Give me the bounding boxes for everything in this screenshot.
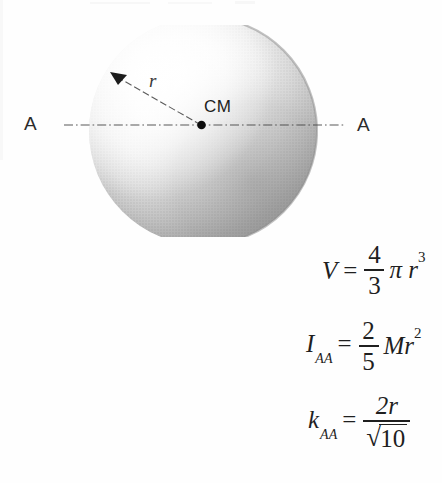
formula-inertia-denominator: 5 xyxy=(359,349,378,375)
formula-volume-fraction: 4 3 xyxy=(364,242,384,299)
formula-inertia-subscript: AA xyxy=(315,351,332,366)
formula-inertia-rhs: Mr2 xyxy=(384,332,422,360)
formula-radgyr-lhs: kAA= xyxy=(308,407,363,437)
radius-arrowhead xyxy=(110,72,127,85)
formula-inertia-numerator: 2 xyxy=(359,318,378,344)
formula-volume-numerator: 4 xyxy=(365,242,384,268)
formula-volume-rhs-body: π r xyxy=(389,256,418,283)
formula-inertia-symbol: I xyxy=(306,330,314,357)
formula-radgyr-denominator: √10 xyxy=(363,424,410,452)
center-of-mass-dot xyxy=(197,121,206,130)
formula-volume-exponent: 3 xyxy=(418,249,426,265)
formula-radgyr-fraction: 2r √10 xyxy=(363,393,410,452)
formula-volume-lhs: V= xyxy=(322,258,364,283)
axis-label-right: A xyxy=(357,114,370,136)
formula-inertia-lhs: IAA= xyxy=(306,331,359,361)
formula-volume-symbol: V xyxy=(322,257,337,284)
square-root-icon: √10 xyxy=(366,424,407,452)
formula-volume-denominator: 3 xyxy=(365,273,384,299)
formula-radius-of-gyration: kAA= 2r √10 xyxy=(300,384,442,460)
formula-radgyr-equals: = xyxy=(342,406,356,433)
formula-moment-of-inertia: IAA= 2 5 Mr2 xyxy=(300,308,442,384)
formula-radgyr-symbol: k xyxy=(308,406,319,433)
radius-line xyxy=(117,77,201,125)
formula-radgyr-subscript: AA xyxy=(320,427,337,442)
formula-inertia-fraction-bar xyxy=(359,345,379,347)
formula-list: V= 4 3 π r3 IAA= 2 5 Mr2 kAA= xyxy=(300,232,442,460)
formula-inertia-equals: = xyxy=(337,330,351,357)
formula-radgyr-radicand: 10 xyxy=(379,424,407,452)
formula-volume-equals: = xyxy=(343,257,357,284)
formula-radgyr-numerator: 2r xyxy=(373,393,401,419)
formula-inertia-exponent: 2 xyxy=(414,325,422,341)
formula-volume-rhs: π r3 xyxy=(389,256,425,284)
axis-label-left: A xyxy=(24,113,37,135)
formula-inertia-rhs-body: Mr xyxy=(384,332,415,359)
formula-volume: V= 4 3 π r3 xyxy=(300,232,442,308)
figure-page: A A CM r V= 4 3 π r3 IAA= 2 5 xyxy=(0,0,442,483)
center-of-mass-label: CM xyxy=(204,97,231,117)
radius-label: r xyxy=(149,70,156,92)
formula-inertia-fraction: 2 5 xyxy=(359,318,379,375)
formula-volume-fraction-bar xyxy=(364,269,384,271)
